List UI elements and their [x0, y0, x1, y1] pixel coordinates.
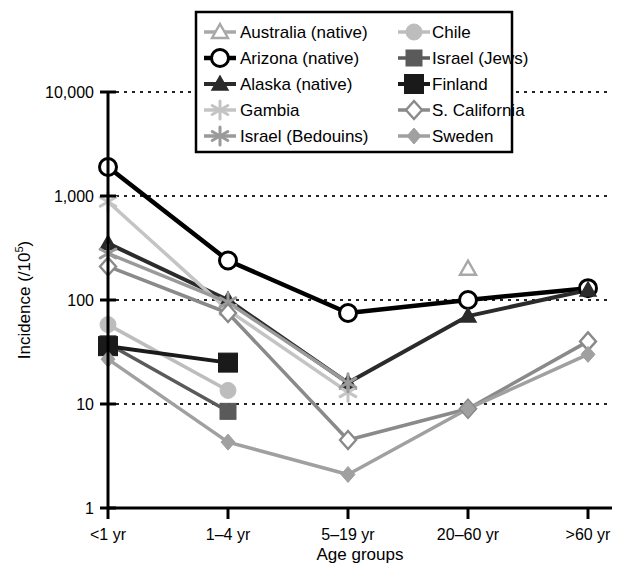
data-point-marker	[340, 304, 357, 321]
legend-item-s-california[interactable]: S. California	[398, 101, 525, 120]
y-axis-title-base: Incidence (/10	[15, 253, 34, 360]
y-axis-title-tail: )	[15, 241, 34, 247]
legend: Australia (native)Arizona (native)Alaska…	[196, 12, 528, 152]
legend-label: Gambia	[240, 101, 300, 120]
svg-text:Incidence (/105): Incidence (/105)	[13, 241, 34, 360]
x-tick-label: 5–19 yr	[321, 526, 375, 543]
legend-item-israel-jews[interactable]: Israel (Jews)	[398, 49, 528, 68]
x-tick-label: <1 yr	[90, 526, 127, 543]
legend-label: Finland	[432, 75, 488, 94]
y-tick-label: 1,000	[54, 188, 94, 205]
legend-label: Alaska (native)	[240, 75, 352, 94]
y-tick-label: 10,000	[45, 84, 94, 101]
legend-label: Arizona (native)	[240, 49, 359, 68]
legend-label: S. California	[432, 101, 525, 120]
y-tick-label: 10	[76, 396, 94, 413]
data-point-marker	[220, 403, 236, 419]
legend-marker-icon	[405, 75, 424, 94]
legend-label: Australia (native)	[240, 23, 368, 42]
incidence-by-age-line-chart: 1101001,00010,000 <1 yr1–4 yr5–19 yr20–6…	[0, 0, 638, 571]
y-axis-title: Incidence (/105)	[13, 241, 34, 360]
legend-label: Israel (Jews)	[432, 49, 528, 68]
legend-marker-icon	[406, 24, 422, 40]
chart-figure: 1101001,00010,000 <1 yr1–4 yr5–19 yr20–6…	[0, 0, 638, 571]
x-tick-label: 20–60 yr	[437, 526, 500, 543]
y-tick-label: 100	[67, 292, 94, 309]
data-point-marker	[219, 353, 238, 372]
x-tick-label: >60 yr	[566, 526, 612, 543]
x-tick-label: 1–4 yr	[206, 526, 251, 543]
legend-item-finland[interactable]: Finland	[398, 75, 488, 95]
y-tick-label: 1	[85, 500, 94, 517]
x-axis-title: Age groups	[317, 545, 404, 564]
legend-label: Israel (Bedouins)	[240, 127, 369, 146]
legend-label: Chile	[432, 23, 471, 42]
legend-marker-icon	[212, 50, 229, 67]
data-point-marker	[220, 382, 236, 398]
data-point-marker	[460, 292, 477, 309]
legend-label: Sweden	[432, 127, 493, 146]
legend-marker-icon	[406, 50, 422, 66]
data-point-marker	[220, 252, 237, 269]
